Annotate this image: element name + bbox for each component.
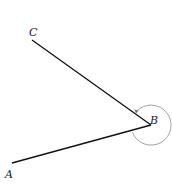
label-c: C <box>29 26 38 39</box>
label-a: A <box>4 168 13 181</box>
segment-ba <box>12 125 151 163</box>
label-b: B <box>149 114 158 127</box>
diagram-svg: C B A <box>0 0 172 184</box>
angle-diagram: C B A <box>0 0 172 184</box>
segment-bc <box>32 40 151 125</box>
